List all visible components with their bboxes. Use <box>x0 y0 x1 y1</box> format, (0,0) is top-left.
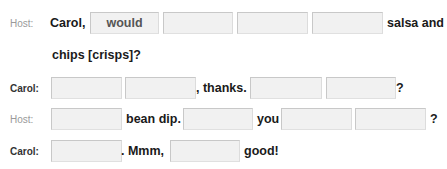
line-text: good! <box>244 144 279 158</box>
answer-box-2[interactable] <box>163 12 233 34</box>
answer-box-14[interactable] <box>170 140 240 162</box>
answer-box-4[interactable] <box>312 12 383 34</box>
line-text: . Mmm, <box>121 144 164 158</box>
dialogue-line-4: Carol: . Mmm, good! <box>0 140 447 164</box>
speaker-label: Carol: <box>10 146 39 157</box>
answer-box-12[interactable] <box>355 108 426 130</box>
answer-box-3[interactable] <box>237 12 308 34</box>
answer-box-10[interactable] <box>183 108 253 130</box>
speaker-label: Carol: <box>10 83 39 94</box>
answer-box-9[interactable] <box>51 108 122 130</box>
speaker-label: Host: <box>10 114 33 125</box>
answer-box-13[interactable] <box>51 140 122 162</box>
answer-box-8[interactable] <box>326 77 396 99</box>
line-text: you <box>257 112 279 126</box>
answer-box-5[interactable] <box>51 77 122 99</box>
dialogue-line-2: Carol: , thanks. ? <box>0 77 447 101</box>
line-text: ? <box>430 112 438 126</box>
dialogue-line-1-continued: chips [crisps]? <box>0 44 447 68</box>
line-text: chips [crisps]? <box>52 48 141 62</box>
line-text: , thanks. <box>196 81 247 95</box>
answer-box-11[interactable] <box>281 108 352 130</box>
line-text: Carol, <box>50 16 85 30</box>
answer-box-7[interactable] <box>250 77 322 99</box>
dialogue-line-3: Host: bean dip. you ? <box>0 108 447 132</box>
answer-box-1[interactable]: would <box>90 12 159 34</box>
line-text: bean dip. <box>126 112 181 126</box>
line-text: ? <box>396 81 404 95</box>
line-text: salsa and <box>387 16 444 30</box>
answer-box-6[interactable] <box>125 77 196 99</box>
dialogue-line-1: Host: Carol, would salsa and <box>0 12 447 36</box>
speaker-label: Host: <box>10 18 33 29</box>
